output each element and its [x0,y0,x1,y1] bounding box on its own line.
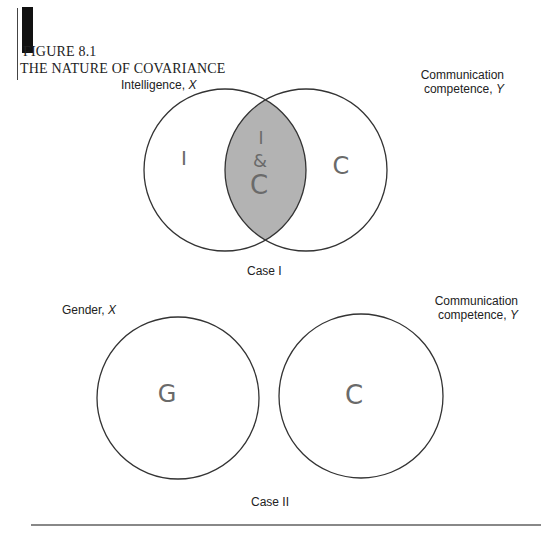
case1-right-mark: C [333,152,350,180]
case1-overlap-mark-3: C [250,170,268,200]
case2-left-mark: G [158,380,177,408]
case1-left-mark: I [181,146,187,170]
figure-bottom-rule [31,524,541,526]
case2-circle-gender [97,317,259,479]
case1-overlap-mark-1: I [258,128,263,148]
case1-overlap-mark-2: & [253,150,267,171]
case2-right-mark: C [345,380,363,410]
venn-diagram: I C I & C G C [0,0,541,544]
